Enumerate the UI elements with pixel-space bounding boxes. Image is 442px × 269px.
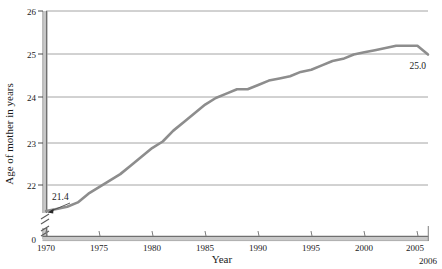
x-axis-title: Year xyxy=(212,253,233,265)
y-tick-label-26: 26 xyxy=(27,7,37,17)
y-tick-label-24: 24 xyxy=(27,93,37,103)
x-tick-label-1975: 1975 xyxy=(90,243,109,253)
x-tick-label-1985: 1985 xyxy=(196,243,215,253)
x-tick-label-2005: 2005 xyxy=(406,243,425,253)
gridlines xyxy=(46,11,428,185)
y-tick-labels: 26 25 24 23 22 0 xyxy=(27,7,37,246)
x-tick-label-2006: 2006 xyxy=(419,256,438,266)
y-axis-title: Age of mother in years xyxy=(3,83,15,184)
end-value-label: 25.0 xyxy=(409,61,426,71)
x-tick-label-1995: 1995 xyxy=(302,243,321,253)
y-tick-label-23: 23 xyxy=(27,139,37,149)
y-tick-label-22: 22 xyxy=(27,181,36,191)
y-axis-spine xyxy=(43,11,48,239)
x-axis-spine xyxy=(43,226,429,241)
data-series-line xyxy=(46,46,428,211)
x-tick-label-1990: 1990 xyxy=(249,243,268,253)
x-tick-labels: 1970 1975 1980 1985 1990 1995 2000 2005 … xyxy=(37,243,438,266)
chart-figure: Age of mother in years xyxy=(0,0,442,269)
x-tick-label-1980: 1980 xyxy=(143,243,162,253)
x-tick-marks xyxy=(46,231,418,236)
x-tick-label-1970: 1970 xyxy=(37,243,56,253)
y-tick-marks xyxy=(38,11,43,185)
birth-age-line-chart: Age of mother in years xyxy=(0,0,442,269)
y-tick-label-25: 25 xyxy=(27,50,37,60)
y-axis-zero-label: 0 xyxy=(32,235,37,245)
x-tick-label-2000: 2000 xyxy=(355,243,374,253)
start-value-label: 21.4 xyxy=(52,192,69,202)
